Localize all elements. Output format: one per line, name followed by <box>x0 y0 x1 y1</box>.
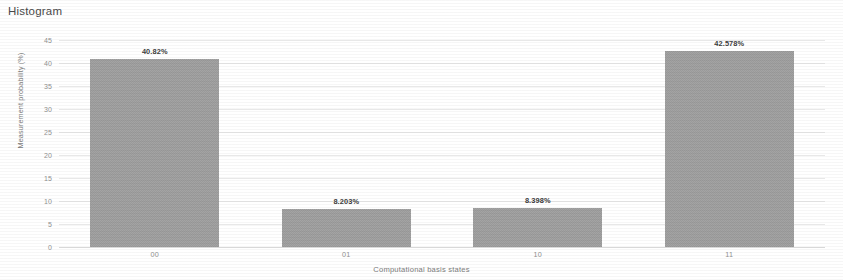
y-tick-label: 5 <box>48 221 52 228</box>
bar-value-label-00: 40.82% <box>142 47 168 56</box>
y-tick-label: 25 <box>44 129 52 136</box>
y-tick-label: 30 <box>44 106 52 113</box>
bar-value-label-10: 8.398% <box>525 196 551 205</box>
x-tick-label-11: 11 <box>725 250 733 259</box>
plot-area: 40.82%8.203%8.398%42.578% <box>59 40 825 247</box>
y-tick-label: 35 <box>44 83 52 90</box>
x-tick-label-00: 00 <box>150 250 159 259</box>
x-tick-label-01: 01 <box>342 250 351 259</box>
x-axis-title: Computational basis states <box>0 265 843 274</box>
histogram-figure: Histogram Measurement probability (%) 05… <box>0 0 843 280</box>
chart-title: Histogram <box>8 5 62 17</box>
y-axis-tick-labels: 051015202530354045 <box>0 40 59 247</box>
y-tick-label: 0 <box>48 244 52 251</box>
bar-value-label-11: 42.578% <box>714 39 744 48</box>
bar-value-label-01: 8.203% <box>333 197 359 206</box>
gridline <box>59 247 825 248</box>
bar-10[interactable] <box>473 208 602 247</box>
x-tick-label-10: 10 <box>533 250 542 259</box>
y-tick-label: 10 <box>44 198 52 205</box>
y-tick-label: 20 <box>44 152 52 159</box>
x-axis-tick-labels: 00011011 <box>59 250 825 264</box>
bar-11[interactable] <box>665 51 794 247</box>
y-tick-label: 45 <box>44 37 52 44</box>
bar-00[interactable] <box>90 59 219 247</box>
bar-01[interactable] <box>282 209 411 247</box>
y-tick-label: 40 <box>44 60 52 67</box>
gridline <box>59 40 825 41</box>
y-tick-label: 15 <box>44 175 52 182</box>
